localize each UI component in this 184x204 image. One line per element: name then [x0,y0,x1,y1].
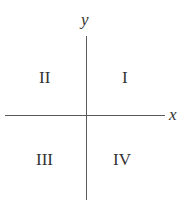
quadrant-3-label: III [36,151,53,168]
quadrant-4-label: IV [113,151,131,168]
quadrant-2-label: II [39,69,50,86]
y-axis-label: y [81,11,89,28]
x-axis [5,115,165,116]
quadrant-diagram: y x II I III IV [0,0,184,204]
x-axis-label: x [169,106,177,123]
y-axis [86,36,87,200]
quadrant-1-label: I [122,69,128,86]
